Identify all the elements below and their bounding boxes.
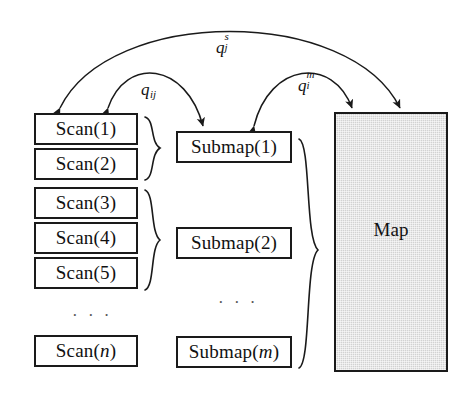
scan-box-n[interactable]: Scan(n) <box>34 335 138 367</box>
submap-box-1[interactable]: Submap(1) <box>176 131 292 163</box>
arc-label-submap-to-map-base: q <box>298 76 307 95</box>
submap-column-ellipsis: · · · <box>218 293 258 313</box>
map-box-label: Map <box>374 219 409 241</box>
arc-label-scan-to-submap-base: q <box>141 80 150 99</box>
scan-box-1[interactable]: Scan(1) <box>34 113 138 145</box>
arc-label-submap-to-map: qmi <box>298 74 314 96</box>
map-box[interactable]: Map <box>334 112 448 372</box>
arc-label-scan-to-submap-sub: ij <box>150 88 156 100</box>
scan-box-n-label: Scan(n) <box>56 340 117 362</box>
submap-box-2-label: Submap(2) <box>191 232 277 254</box>
scan-box-4-label: Scan(4) <box>56 227 117 249</box>
scan-box-3[interactable]: Scan(3) <box>34 187 138 219</box>
hierarchical-slam-diagram: Scan(1) Scan(2) Scan(3) Scan(4) Scan(5) … <box>0 0 473 400</box>
scan-box-3-label: Scan(3) <box>56 192 117 214</box>
submap-box-2[interactable]: Submap(2) <box>176 227 292 259</box>
submap-box-m[interactable]: Submap(m) <box>176 336 292 368</box>
arc-label-submap-to-map-scripts: mi <box>307 74 314 91</box>
scan-column-ellipsis: · · · <box>72 306 112 326</box>
arc-label-scan-to-map-scripts: sj <box>225 36 232 53</box>
scan-box-2-label: Scan(2) <box>56 153 117 175</box>
brace-scan-3-5 <box>145 190 160 290</box>
scan-box-1-label: Scan(1) <box>56 118 117 140</box>
submap-box-m-label: Submap(m) <box>189 341 279 363</box>
scan-box-4[interactable]: Scan(4) <box>34 222 138 254</box>
arc-label-scan-to-map: qsj <box>216 36 232 58</box>
submap-box-1-label: Submap(1) <box>191 136 277 158</box>
scan-box-2[interactable]: Scan(2) <box>34 148 138 180</box>
scan-box-5-label: Scan(5) <box>56 262 117 284</box>
scan-box-5[interactable]: Scan(5) <box>34 257 138 289</box>
arc-label-scan-to-map-base: q <box>216 38 225 57</box>
brace-scan-1-2 <box>145 117 160 180</box>
arc-label-scan-to-submap: qij <box>141 80 156 100</box>
brace-submaps <box>299 139 318 368</box>
